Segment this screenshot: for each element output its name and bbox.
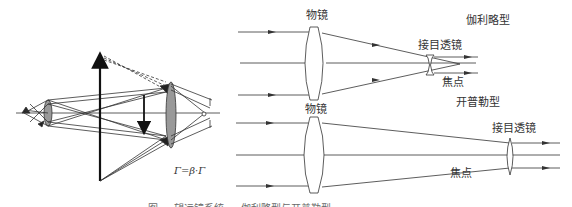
keplerian-eyepiece-label: 接目透镜 bbox=[492, 119, 536, 135]
galilean-objective-lens-icon bbox=[305, 27, 323, 100]
magnification-formula: Γ=β·Γ bbox=[174, 165, 205, 176]
galilean-eyepiece-label: 接目透镜 bbox=[418, 36, 462, 52]
keplerian-focus-label: 焦点 bbox=[450, 164, 472, 180]
left-panel-diagram bbox=[16, 56, 220, 181]
keplerian-objective-label: 物镜 bbox=[305, 100, 327, 116]
keplerian-objective-lens-icon bbox=[304, 117, 324, 193]
galilean-objective-label: 物镜 bbox=[306, 6, 328, 22]
keplerian-eyepiece-lens-icon bbox=[507, 138, 513, 175]
optics-figure: 物镜 伽利略型 接目透镜 焦点 开普勒型 物镜 接目透镜 焦点 Γ=β·Γ 图 … bbox=[0, 0, 572, 207]
figure-caption: 图 … 望远镜系统 … 伽利略型与开普勒型 bbox=[148, 200, 331, 207]
galilean-type-label: 伽利略型 bbox=[466, 11, 510, 27]
galilean-focus-label: 焦点 bbox=[442, 73, 464, 89]
keplerian-type-label: 开普勒型 bbox=[456, 93, 500, 109]
